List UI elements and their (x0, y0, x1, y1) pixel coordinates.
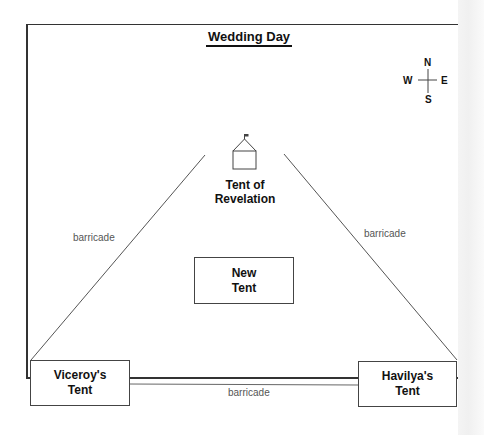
compass-east: E (441, 75, 448, 86)
bottom-barricade-label: barricade (228, 387, 270, 398)
compass-west: W (403, 75, 412, 86)
bottom-barricade-line-top (129, 384, 358, 385)
left-barricade-label: barricade (73, 232, 115, 243)
compass-south: S (425, 94, 432, 105)
left-barricade-line (31, 155, 205, 360)
tent-of-revelation-icon (233, 134, 256, 169)
havilyas-tent-box: Havilya's Tent (358, 361, 457, 407)
compass-north: N (424, 57, 431, 68)
viceroys-tent-box: Viceroy's Tent (30, 360, 130, 406)
right-barricade-label: barricade (364, 228, 406, 239)
new-tent-box: New Tent (194, 257, 294, 304)
diagram-title: Wedding Day (206, 30, 292, 47)
right-barricade-line (284, 154, 457, 360)
compass-cross-icon (418, 69, 437, 93)
tent-of-revelation-label: Tent of Revelation (208, 178, 282, 206)
